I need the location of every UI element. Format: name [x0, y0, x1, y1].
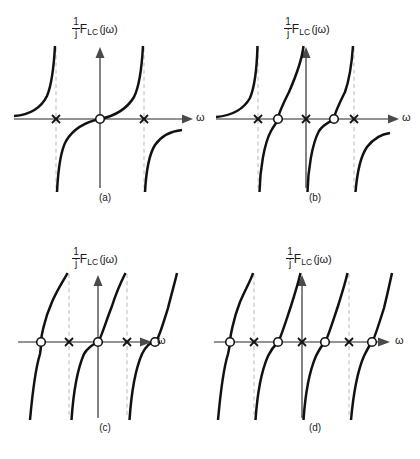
panel-b: 1 j FLC(jω)	[210, 0, 420, 229]
x-axis-label-d: ω	[395, 334, 404, 346]
panel-caption-a: (a)	[0, 192, 210, 203]
zero-marker	[96, 115, 105, 124]
panel-d: 1 j FLC(jω)	[210, 230, 420, 459]
x-axis-label-b: ω	[402, 111, 411, 123]
panel-caption-c: (c)	[0, 422, 210, 433]
zero-marker	[226, 338, 235, 347]
panel-a: 1 j FLC(jω)	[0, 0, 210, 229]
zero-marker	[321, 338, 330, 347]
zero-marker	[330, 115, 339, 124]
arrow-up-icon	[94, 275, 103, 286]
x-axis-label-c: ω	[157, 334, 166, 346]
zero-marker	[274, 338, 283, 347]
curve-branch	[145, 130, 182, 192]
arrow-right-icon	[182, 115, 193, 124]
zero-marker	[94, 338, 103, 347]
figure-reactance-plots: 1 j FLC(jω)	[0, 0, 420, 459]
zero-marker	[368, 338, 377, 347]
arrow-up-icon	[96, 47, 105, 58]
panel-caption-b: (b)	[210, 192, 420, 203]
curve-branch	[30, 273, 68, 420]
curve-branch	[216, 46, 258, 117]
zero-marker	[274, 115, 283, 124]
curve-branch	[356, 133, 391, 192]
panel-caption-d: (d)	[210, 422, 420, 433]
arrow-right-icon	[388, 115, 399, 124]
curve-branch	[14, 46, 55, 116]
arrow-right-icon	[378, 338, 390, 347]
curve-branch	[218, 273, 253, 420]
panel-c: 1 j FLC(jω)	[0, 230, 210, 459]
x-axis-label-a: ω	[196, 111, 205, 123]
zero-marker	[37, 338, 46, 347]
